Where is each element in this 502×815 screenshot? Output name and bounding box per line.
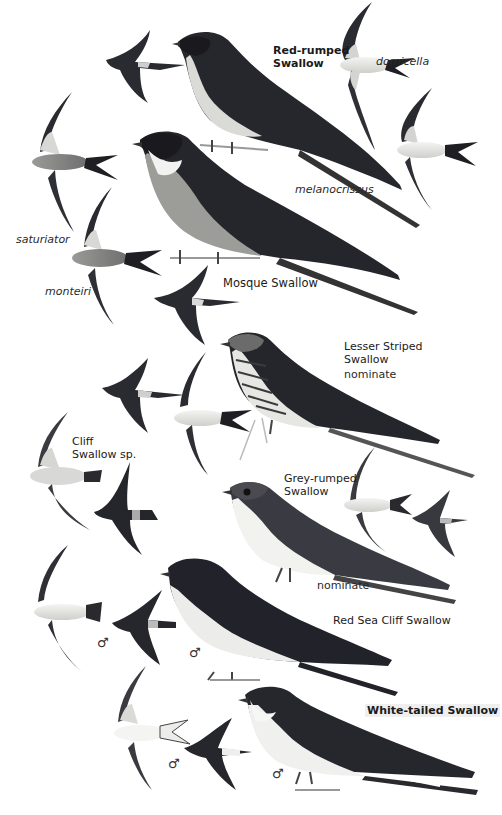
male-symbol-white-tailed-flying: ♂ — [168, 756, 180, 771]
label-monteiri: monteiri — [45, 285, 91, 298]
label-saturiator: saturiator — [16, 233, 70, 246]
label-grey-rumped-nominate: nominate — [317, 579, 369, 592]
field-guide-plate: Red-rumped Swallow domicella melanocriss… — [0, 0, 502, 815]
label-red-sea-cliff-swallow: Red Sea Cliff Swallow — [333, 614, 451, 627]
lesser-striped-swallow-flying-dark — [102, 358, 185, 433]
monteiri-flying — [72, 187, 162, 325]
label-grey-rumped-swallow: Grey-rumped Swallow — [284, 472, 357, 498]
label-red-rumped-swallow: Red-rumped Swallow — [273, 44, 349, 70]
domicella-flying-lower — [397, 88, 478, 210]
label-lesser-striped-nominate: nominate — [344, 368, 396, 381]
male-symbol-red-sea-flying: ♂ — [97, 635, 109, 650]
label-white-tailed-swallow: White-tailed Swallow — [365, 704, 500, 717]
red-rumped-swallow-flying-top — [106, 30, 185, 103]
male-symbol-red-sea-perched: ♂ — [189, 645, 201, 660]
grey-rumped-swallow-flying-pale — [344, 447, 412, 552]
cliff-swallow-flying-dark — [94, 462, 158, 555]
saturiator-flying — [32, 92, 118, 232]
white-tailed-swallow-flying-pale — [114, 666, 190, 790]
label-melanocrissus: melanocrissus — [295, 183, 374, 196]
male-symbol-white-tailed-perched: ♂ — [272, 766, 284, 781]
label-domicella: domicella — [376, 55, 429, 68]
label-cliff-swallow-sp: Cliff Swallow sp. — [72, 435, 136, 461]
bird-illustrations — [0, 0, 502, 815]
red-sea-cliff-swallow-flying-pale — [34, 545, 102, 672]
cliff-swallow-flying-pale — [30, 412, 102, 530]
label-lesser-striped-swallow: Lesser Striped Swallow — [344, 340, 423, 366]
red-sea-cliff-swallow-flying-dark — [112, 590, 176, 665]
white-tailed-swallow-flying-dark — [184, 718, 252, 790]
label-mosque-swallow: Mosque Swallow — [223, 277, 318, 290]
grey-rumped-swallow-flying-dark — [412, 490, 468, 557]
